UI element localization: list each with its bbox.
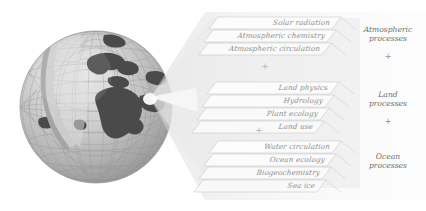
group-label-line1: Ocean xyxy=(354,152,422,161)
panel-label-sea-ice: Sea ice xyxy=(224,181,315,190)
group-label-land-processes: Land processes xyxy=(354,90,422,109)
panel-label-atmospheric-circulation: Atmospheric circulation xyxy=(215,44,320,53)
panel-label-plant-ecology: Plant ecology xyxy=(237,109,318,118)
group-label-line2: processes xyxy=(354,34,422,43)
panel-label-atmospheric-chemistry: Atmospheric chemistry xyxy=(220,31,325,40)
globe-group xyxy=(20,28,172,183)
panel-label-biogeochemistry: Biogeochemistry xyxy=(229,168,320,177)
group-label-ocean-processes: Ocean processes xyxy=(354,152,422,171)
group-label-line1: Land xyxy=(354,90,422,99)
panel-label-hydrology: Hydrology xyxy=(242,96,323,105)
panel-label-ocean-ecology: Ocean ecology xyxy=(234,155,325,164)
earth-system-model-diagram: Solar radiation Atmospheric chemistry At… xyxy=(0,0,426,211)
group-label-line1: Atmospheric xyxy=(354,25,422,34)
beam-source-glow xyxy=(143,93,157,105)
group-separator-plus-1: + xyxy=(354,52,422,61)
group-separator-plus-2: + xyxy=(354,117,422,126)
group-label-atmospheric-processes: Atmospheric processes xyxy=(354,25,422,44)
panel-label-land-use: Land use xyxy=(232,122,313,131)
panel-label-water-circulation: Water circulation xyxy=(239,142,330,151)
stack-separator-plus-2: + xyxy=(252,126,266,135)
group-label-line2: processes xyxy=(354,99,422,108)
stack-separator-plus-1: + xyxy=(258,62,272,71)
panel-label-land-physics: Land physics xyxy=(247,83,328,92)
panel-label-solar-radiation: Solar radiation xyxy=(245,18,330,27)
group-label-line2: processes xyxy=(354,161,422,170)
globe-highlight xyxy=(32,40,112,108)
